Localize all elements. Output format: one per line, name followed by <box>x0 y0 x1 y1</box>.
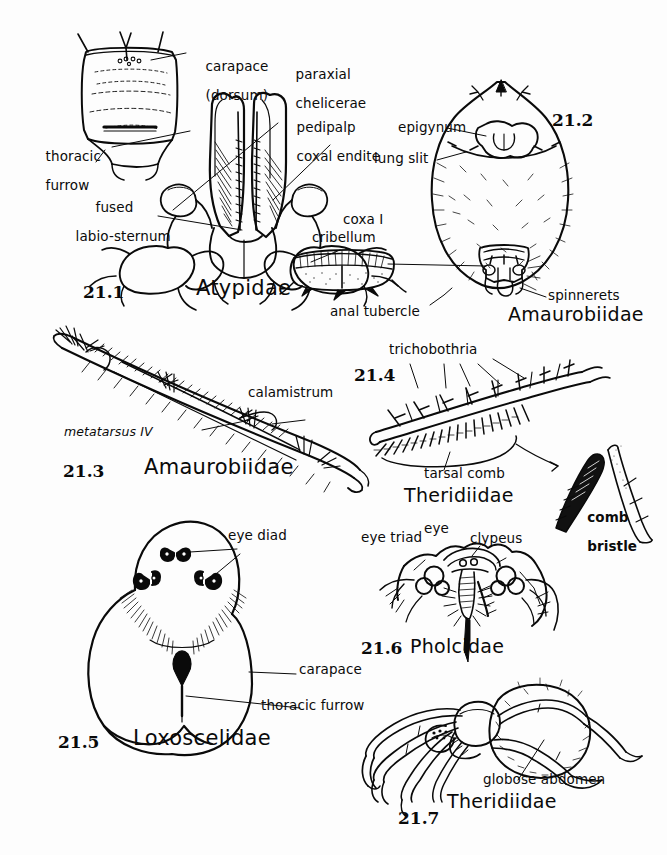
label-thoracic-furrow-5: thoracic furrow <box>261 698 365 713</box>
label-trichobothria: trichobothria <box>389 342 477 357</box>
label-eye: eye <box>424 521 449 536</box>
label-carapace-dorsum: carapace (dorsum) <box>188 44 268 117</box>
label-anal-tubercle: anal tubercle <box>330 304 420 319</box>
fig-family-theridiidae-7: Theridiidae <box>447 790 557 812</box>
fig-family-atypidae: Atypidae <box>196 276 291 300</box>
label-eye-diad: eye diad <box>228 528 287 543</box>
fig-number-21-4: 21.4 <box>354 365 395 385</box>
label-carapace: carapace <box>299 662 362 677</box>
fig-number-21-1: 21.1 <box>83 282 124 302</box>
label-bristle-line2: bristle <box>587 538 637 554</box>
illustration-plate: carapace (dorsum) paraxial chelicerae pe… <box>0 0 667 855</box>
label-eye-triad: eye triad <box>361 530 422 545</box>
label-fused-labio-sternum: fused labio-sternum <box>58 185 171 258</box>
fig-family-amaurobiidae-3: Amaurobiidae <box>144 455 294 479</box>
label-calamistrum: calamistrum <box>248 385 333 400</box>
fig-number-21-7: 21.7 <box>398 808 439 828</box>
fig-family-pholcidae: Pholcidae <box>410 635 504 657</box>
fig-family-theridiidae-4: Theridiidae <box>404 484 514 506</box>
label-metatarsus-iv: metatarsus IV <box>64 425 153 439</box>
label-fused-line1: fused <box>96 199 134 215</box>
label-lung-slit: lung slit <box>374 151 428 166</box>
label-spinnerets: spinnerets <box>548 288 620 303</box>
label-carapace-line2: (dorsum) <box>206 87 268 103</box>
label-thoracic-line1: thoracic <box>46 148 101 164</box>
label-clypeus: clypeus <box>470 531 522 546</box>
label-coxa-i: coxa I <box>343 212 383 227</box>
label-paraxial-line1: paraxial <box>296 66 351 82</box>
label-epigynum: epigynum <box>398 120 466 135</box>
label-pedipalp-line1: pedipalp <box>297 119 356 135</box>
label-labio-sternum-line2: labio-sternum <box>76 228 171 244</box>
label-globose-abdomen: globose abdomen <box>483 772 605 787</box>
label-pedipalp-coxal-endite: pedipalp coxal endite <box>279 105 380 178</box>
label-cribellum: cribellum <box>312 230 376 245</box>
fig-number-21-5: 21.5 <box>58 732 99 752</box>
fig-number-21-2: 21.2 <box>552 110 593 130</box>
label-comb-line1: comb <box>587 509 628 525</box>
label-coxal-endite-line2: coxal endite <box>297 148 381 164</box>
fig-21-5-artwork <box>88 522 300 755</box>
fig-number-21-6: 21.6 <box>361 638 402 658</box>
label-tarsal-comb: tarsal comb <box>424 466 505 481</box>
fig-family-loxoscelidae: Loxoscelidae <box>133 726 271 750</box>
label-comb-bristle: comb bristle <box>568 495 637 568</box>
fig-number-21-3: 21.3 <box>63 461 104 481</box>
fig-family-amaurobiidae-2: Amaurobiidae <box>508 303 644 325</box>
label-carapace-line1: carapace <box>206 58 269 74</box>
